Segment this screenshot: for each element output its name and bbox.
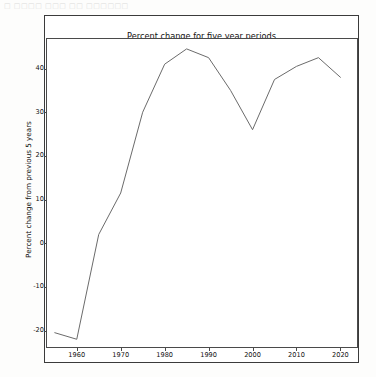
- x-tick-label: 2010: [279, 352, 313, 359]
- x-tick-mark: [77, 348, 78, 351]
- x-axis-tick-labels: 1960197019801990200020102020: [0, 0, 376, 377]
- chart-page: □ □□□□ □□□ □□ □□□□□□ Percent change for …: [0, 0, 376, 377]
- x-tick-label: 1980: [148, 352, 182, 359]
- x-tick-label: 2020: [323, 352, 357, 359]
- x-tick-mark: [121, 348, 122, 351]
- x-tick-label: 1990: [192, 352, 226, 359]
- x-tick-label: 1970: [104, 352, 138, 359]
- x-tick-label: 2000: [236, 352, 270, 359]
- x-tick-label: 1960: [60, 352, 94, 359]
- x-tick-mark: [165, 348, 166, 351]
- x-tick-mark: [340, 348, 341, 351]
- x-tick-mark: [209, 348, 210, 351]
- x-tick-mark: [253, 348, 254, 351]
- x-tick-mark: [296, 348, 297, 351]
